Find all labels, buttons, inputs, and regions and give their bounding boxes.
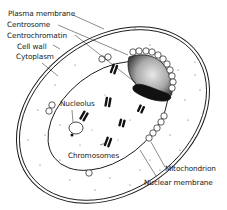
label-plasma-membrane: Plasma membrane	[8, 10, 75, 18]
label-nuclear-membrane: Nuclear membrane	[144, 179, 213, 187]
label-centrochromatin: Centrochromatin	[7, 32, 67, 40]
label-mitochondrion: Mitochondrion	[165, 165, 216, 173]
label-chromosomes: Chromosomes	[68, 152, 119, 160]
label-cell-wall: Cell wall	[17, 43, 47, 51]
label-nucleolus: Nucleolus	[60, 100, 95, 108]
nucleolus	[69, 122, 83, 134]
label-centrosome: Centrosome	[7, 21, 50, 29]
label-cytoplasm: Cytoplasm	[16, 53, 54, 61]
